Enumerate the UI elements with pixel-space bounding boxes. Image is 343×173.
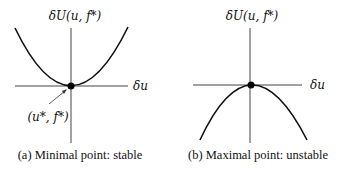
point-label: (u*, f*) bbox=[27, 110, 68, 124]
pointer-arrow bbox=[49, 91, 65, 104]
panel-minimal: δU(u, f*) δu (u*, f*) (a) Minimal point:… bbox=[15, 9, 148, 162]
equilibrium-point bbox=[68, 83, 75, 90]
x-axis-label: δu bbox=[133, 79, 148, 93]
caption-a: (a) Minimal point: stable bbox=[18, 148, 143, 162]
y-axis-label: δU(u, f*) bbox=[49, 9, 102, 23]
caption-b: (b) Maximal point: unstable bbox=[188, 148, 328, 162]
y-axis-label: δU(u, f*) bbox=[226, 9, 279, 23]
concave-curve bbox=[200, 85, 307, 140]
equilibrium-point bbox=[248, 82, 255, 89]
stability-diagram: δU(u, f*) δu (u*, f*) (a) Minimal point:… bbox=[0, 0, 343, 173]
x-axis-label: δu bbox=[310, 78, 325, 92]
panel-maximal: δU(u, f*) δu (b) Maximal point: unstable bbox=[188, 9, 328, 162]
